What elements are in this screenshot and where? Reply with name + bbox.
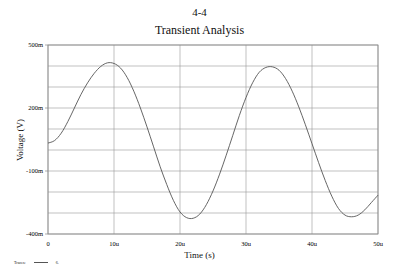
y-tick-label: 200m [28, 104, 43, 111]
x-tick-label: 40u [307, 240, 318, 247]
y-tick-label: 500m [28, 41, 43, 48]
plot-frame [48, 45, 378, 234]
x-tick-label: 50u [373, 240, 384, 247]
y-axis-label: Voltage (V) [15, 119, 25, 161]
x-tick-label: 0 [46, 240, 49, 247]
x-tick-label: 30u [241, 240, 252, 247]
axis-ticks: 010u20u30u40u50u500m200m-100m-400m [26, 41, 384, 247]
trace-line [48, 63, 378, 219]
y-tick-label: -400m [26, 230, 43, 237]
legend-title: Traces: [14, 260, 26, 265]
x-axis-label: Time (s) [0, 250, 399, 260]
legend-entry-label: 6. [56, 260, 59, 265]
legend: Traces: 6. [14, 260, 59, 265]
plot-area: 010u20u30u40u50u500m200m-100m-400m [0, 0, 399, 280]
y-tick-label: -100m [26, 167, 43, 174]
legend-line-swatch-icon [34, 262, 48, 263]
x-tick-label: 20u [175, 240, 186, 247]
gridlines [48, 45, 378, 234]
x-tick-label: 10u [109, 240, 120, 247]
